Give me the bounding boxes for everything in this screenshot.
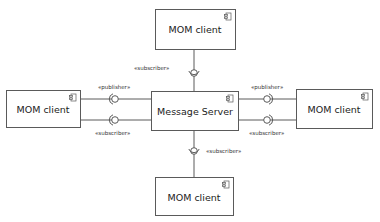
stereotype-label-left-publisher: «publisher» <box>98 84 130 91</box>
ball-socket-icon <box>189 148 199 155</box>
stereotype-label-right-publisher: «publisher» <box>251 84 283 91</box>
stereotype-label-right-subscriber: «subscriber» <box>249 130 284 136</box>
component-label: MOM client <box>17 104 70 115</box>
stereotype-label-top: «subscriber» <box>134 65 169 71</box>
component-top-mom-client[interactable]: MOM client <box>156 10 236 50</box>
component-label: MOM client <box>308 104 361 115</box>
stereotype-label-bottom: «subscriber» <box>206 148 241 154</box>
ball-socket-icon <box>189 70 199 77</box>
component-diagram: «subscriber» «publisher» «subscriber» «p… <box>0 0 380 222</box>
component-label: MOM client <box>169 24 222 35</box>
component-bottom-mom-client[interactable]: MOM client <box>156 178 234 216</box>
component-center-message-server[interactable]: Message Server <box>152 92 239 131</box>
component-left-mom-client[interactable]: MOM client <box>7 91 81 128</box>
component-label: MOM client <box>168 192 221 203</box>
component-right-mom-client[interactable]: MOM client <box>297 90 373 129</box>
component-label: Message Server <box>157 106 233 117</box>
stereotype-label-left-subscriber: «subscriber» <box>95 130 130 136</box>
